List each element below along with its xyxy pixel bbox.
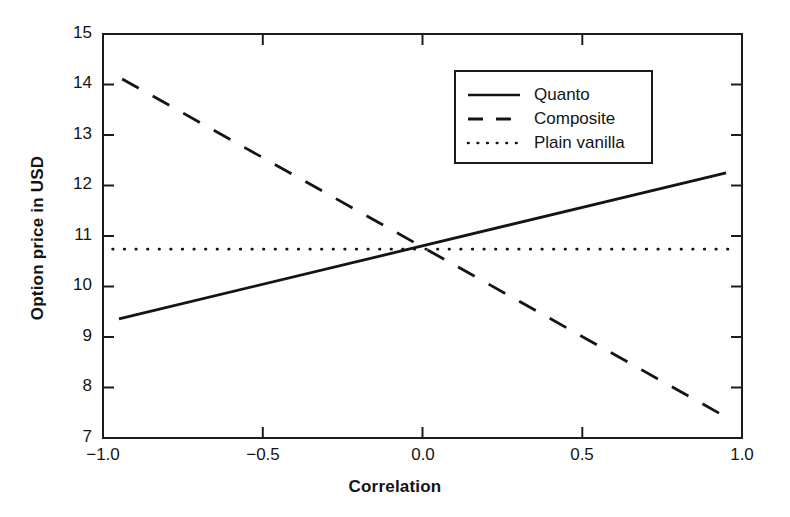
y-axis-title: Option price in USD: [28, 128, 48, 348]
x-tick-label-0-5: 0.5: [542, 445, 622, 465]
y-tick-label-10: 10: [46, 275, 92, 295]
x-tick-label-1: 1.0: [702, 445, 782, 465]
legend-label-quanto: Quanto: [534, 85, 590, 105]
y-tick-label-13: 13: [46, 124, 92, 144]
legend-label-composite: Composite: [534, 109, 615, 129]
y-tick-label-12: 12: [46, 174, 92, 194]
y-tick-label-9: 9: [46, 326, 92, 346]
x-tick-label-neg-0-5: −0.5: [223, 445, 303, 465]
figure-canvas: 15 14 13 12 11 10 9 8 7 −1.0 −0.5 0.0 0.…: [0, 0, 790, 517]
y-tick-label-14: 14: [46, 73, 92, 93]
x-tick-label-neg-1: −1.0: [63, 445, 143, 465]
legend-label-plain-vanilla: Plain vanilla: [534, 133, 625, 153]
x-tick-label-0: 0.0: [383, 445, 463, 465]
y-tick-label-15: 15: [46, 23, 92, 43]
chart-plot: [0, 0, 790, 517]
y-tick-label-11: 11: [46, 225, 92, 245]
y-tick-label-8: 8: [46, 376, 92, 396]
y-tick-label-7: 7: [46, 427, 92, 447]
x-axis-title: Correlation: [0, 477, 790, 497]
